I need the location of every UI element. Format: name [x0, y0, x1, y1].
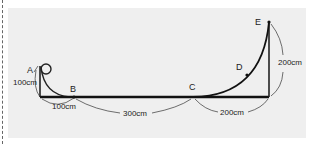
label-d: D — [236, 62, 243, 72]
dim-arc-e-top — [271, 24, 283, 55]
dim-arc-bc-right — [152, 99, 191, 113]
dim-label-height-a: 100cm — [13, 78, 37, 87]
track-diagram: A B C D E 100cm 100cm 300cm 200cm 200cm — [0, 0, 312, 144]
point-e-marker — [267, 20, 270, 23]
point-d-marker — [245, 73, 248, 76]
dim-arc-ce-left — [195, 99, 218, 112]
label-b: B — [70, 84, 76, 94]
dim-label-ab: 100cm — [52, 102, 76, 111]
label-e: E — [255, 17, 261, 27]
ramp-curve-ab — [41, 67, 70, 97]
label-a: A — [27, 65, 33, 75]
label-c: C — [189, 82, 196, 92]
dim-arc-ce-right — [248, 99, 268, 112]
ramp-curve-ce — [193, 22, 269, 97]
dim-label-ce: 200cm — [220, 108, 244, 117]
dim-label-height-e: 200cm — [278, 58, 302, 67]
dim-label-bc: 300cm — [123, 109, 147, 118]
dim-arc-bc-left — [76, 99, 120, 113]
dim-arc-e-bottom — [271, 72, 283, 96]
